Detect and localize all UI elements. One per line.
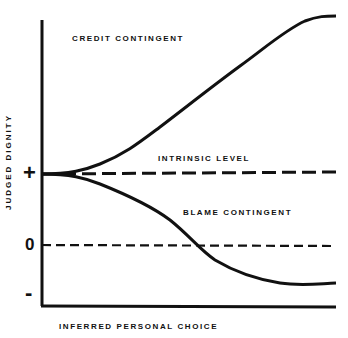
x-axis <box>41 306 336 307</box>
blame-contingent-curve <box>42 174 336 285</box>
x-axis-label: INFERRED PERSONAL CHOICE <box>59 322 218 331</box>
tick-minus: - <box>25 282 32 304</box>
intrinsic-level-line <box>42 172 336 174</box>
blame-contingent-label: BLAME CONTINGENT <box>183 208 292 217</box>
tick-plus: + <box>23 162 36 184</box>
tick-zero: 0 <box>25 236 34 253</box>
intrinsic-level-label: INTRINSIC LEVEL <box>158 154 250 163</box>
y-axis-label: JUDGED DIGNITY <box>4 114 13 210</box>
zero-level-line <box>42 245 336 246</box>
chart-canvas <box>0 0 348 338</box>
credit-contingent-label: CREDIT CONTINGENT <box>72 34 184 43</box>
